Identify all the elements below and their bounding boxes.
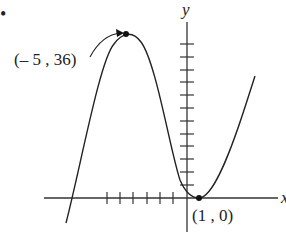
y-axis-label: y [182, 0, 190, 20]
x-axis-label: x [281, 188, 286, 208]
max-point-label: (– 5 , 36) [14, 50, 76, 70]
min-point [196, 195, 202, 201]
max-point [123, 31, 129, 37]
graph-figure: • y x (– 5 , 36) (1 , 0) [0, 0, 286, 232]
problem-bullet: • [0, 4, 6, 25]
max-annotation-arrow [90, 33, 121, 57]
min-point-label: (1 , 0) [192, 206, 233, 226]
graph-canvas [0, 0, 286, 232]
